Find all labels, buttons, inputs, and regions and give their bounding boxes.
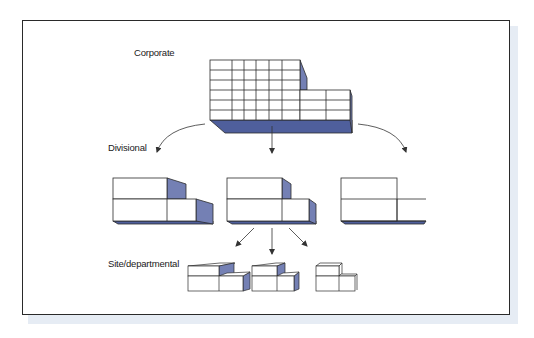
site-block-1 bbox=[188, 263, 250, 291]
corporate-block bbox=[210, 60, 352, 133]
divisional-arrows bbox=[236, 228, 307, 254]
arrow-site-left bbox=[236, 228, 254, 246]
label-corporate: Corporate bbox=[134, 47, 174, 58]
site-block-2 bbox=[252, 263, 299, 291]
divisional-block-3 bbox=[341, 178, 426, 224]
arrow-site-right bbox=[289, 228, 307, 246]
divisional-block-2 bbox=[227, 178, 316, 224]
hierarchy-diagram bbox=[0, 0, 534, 338]
site-block-3 bbox=[316, 263, 357, 291]
label-divisional: Divisional bbox=[108, 142, 147, 153]
divisional-block-1 bbox=[113, 178, 213, 224]
label-site-departmental: Site/departmental bbox=[108, 258, 179, 269]
arrow-left bbox=[157, 124, 205, 152]
arrow-right bbox=[358, 124, 406, 152]
corporate-base-shade bbox=[210, 120, 352, 133]
corporate-side-shade bbox=[300, 60, 307, 90]
